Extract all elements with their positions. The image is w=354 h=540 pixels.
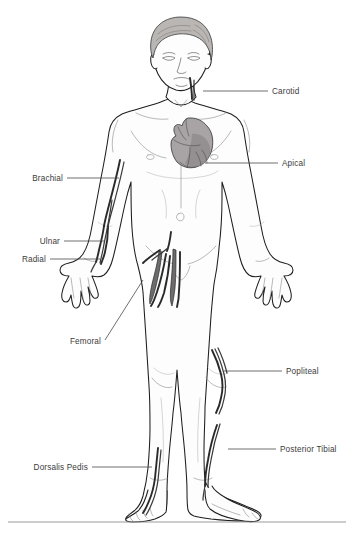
anatomy-illustration: Carotid Apical Brachial Ulnar Radial Fem… <box>0 0 354 540</box>
body-figure <box>60 17 293 522</box>
heart <box>171 118 213 168</box>
label-ulnar: Ulnar <box>40 237 60 246</box>
posterior-tibial-artery <box>205 425 217 486</box>
label-popliteal: Popliteal <box>286 367 319 376</box>
leader-femoral <box>105 280 143 340</box>
label-apical: Apical <box>282 159 305 168</box>
label-carotid: Carotid <box>272 87 300 96</box>
popliteal-artery <box>212 350 223 413</box>
label-radial: Radial <box>22 255 46 264</box>
pulse-points-diagram: Carotid Apical Brachial Ulnar Radial Fem… <box>0 0 354 540</box>
label-dorsalis-pedis: Dorsalis Pedis <box>34 463 88 472</box>
label-femoral: Femoral <box>70 337 101 346</box>
label-posterior-tibial: Posterior Tibial <box>280 445 337 454</box>
label-brachial: Brachial <box>32 174 63 183</box>
